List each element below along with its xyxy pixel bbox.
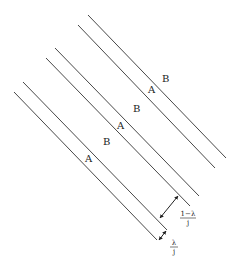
fraction-numerator: 1−λ: [181, 210, 196, 218]
fraction-denominator: j: [186, 219, 189, 227]
fraction-lambda-over-j: λ j: [170, 239, 178, 256]
region-label-a: A: [116, 120, 125, 131]
region-label-b: B: [133, 103, 140, 114]
fraction-denominator: j: [172, 248, 175, 256]
width-arrow-one-minus-lambda: [160, 196, 178, 218]
width-arrow-lambda: [159, 231, 166, 240]
region-label-b: B: [103, 136, 110, 147]
stripe-boundary-line: [55, 48, 199, 196]
region-label-a: A: [147, 84, 156, 95]
fraction-one-minus-lambda-over-j: 1−λ j: [180, 210, 196, 227]
fraction-numerator: λ: [172, 239, 177, 247]
stripe-boundary-line: [78, 25, 215, 168]
region-label-b: B: [162, 73, 169, 84]
stripe-diagram: BABABA 1−λ j λ j: [0, 0, 238, 271]
stripe-boundary-line: [23, 82, 167, 230]
stripe-boundary-line: [14, 92, 157, 240]
region-label-a: A: [84, 153, 93, 164]
